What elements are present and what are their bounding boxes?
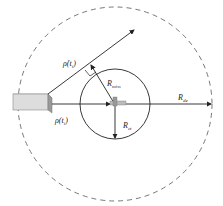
velocity-label: ρ̇(ti) xyxy=(62,59,76,69)
velocity-vector xyxy=(48,30,134,94)
miss-distance-label: Rmiss xyxy=(106,79,121,89)
encounter-geometry-diagram: ρ̇(ti) ρ(ti) Rmiss Rct Rde xyxy=(0,0,223,206)
detection-radius-label: Rde xyxy=(177,93,188,103)
position-label: ρ(ti) xyxy=(54,116,68,126)
intruder-block-icon xyxy=(13,94,52,113)
critical-radius-label: Rct xyxy=(122,121,132,131)
ownship-aircraft-icon xyxy=(110,97,126,106)
